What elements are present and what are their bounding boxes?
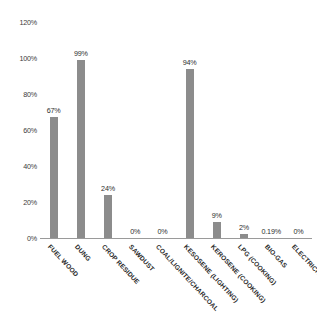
x-axis-label-slot: LPG (COOKING) bbox=[230, 240, 257, 331]
bar-value-label: 0% bbox=[130, 227, 140, 236]
bar[interactable] bbox=[104, 195, 112, 238]
bar[interactable] bbox=[77, 60, 85, 238]
bar-slot: 9% bbox=[203, 22, 230, 238]
bar-slot: 67% bbox=[40, 22, 67, 238]
x-axis-line bbox=[40, 238, 312, 239]
bar-slot: 0% bbox=[149, 22, 176, 238]
x-axis-label-slot: COAL/LIGNITE/CHARCOAL bbox=[149, 240, 176, 331]
y-axis-tick-label: 20% bbox=[23, 198, 37, 207]
x-axis-label-slot: ELECTRICITY bbox=[285, 240, 312, 331]
x-axis-label-slot: BIO-GAS bbox=[258, 240, 285, 331]
x-axis-label-slot: SAWDUST bbox=[122, 240, 149, 331]
y-axis-tick-label: 0% bbox=[27, 234, 37, 243]
x-axis-label-slot: DUNG bbox=[67, 240, 94, 331]
x-axis-label-slot: CROP RESIDUE bbox=[94, 240, 121, 331]
y-axis-tick-label: 40% bbox=[23, 162, 37, 171]
x-axis-label-slot: FUEL WOOD bbox=[40, 240, 67, 331]
bar-value-label: 0% bbox=[293, 227, 303, 236]
bar-slot: 0% bbox=[122, 22, 149, 238]
bar[interactable] bbox=[50, 117, 58, 238]
bar-slot: 24% bbox=[94, 22, 121, 238]
x-axis: FUEL WOODDUNGCROP RESIDUESAWDUSTCOAL/LIG… bbox=[40, 240, 312, 331]
bar-value-label: 67% bbox=[47, 106, 61, 115]
bar-chart: 0%20%40%60%80%100%120% 67%99%24%0%0%94%9… bbox=[0, 0, 317, 331]
bar-slot: 0% bbox=[285, 22, 312, 238]
bar-value-label: 24% bbox=[101, 184, 115, 193]
bar-value-label: 9% bbox=[212, 211, 222, 220]
bar-slot: 99% bbox=[67, 22, 94, 238]
y-axis: 0%20%40%60%80%100%120% bbox=[0, 0, 40, 331]
bar-value-label: 0% bbox=[157, 227, 167, 236]
bar-value-label: 2% bbox=[239, 223, 249, 232]
x-axis-label-slot: KEROSENE (COOKING) bbox=[203, 240, 230, 331]
plot-area: 67%99%24%0%0%94%9%2%0.19%0% bbox=[40, 22, 312, 238]
bar[interactable] bbox=[213, 222, 221, 238]
bar-value-label: 99% bbox=[74, 49, 88, 58]
x-axis-tick-label: DUNG bbox=[74, 243, 93, 262]
y-axis-tick-label: 100% bbox=[19, 54, 37, 63]
bar-slot: 94% bbox=[176, 22, 203, 238]
bar-value-label: 0.19% bbox=[261, 227, 280, 236]
y-axis-tick-label: 80% bbox=[23, 90, 37, 99]
x-axis-tick-label: ELECTRICITY bbox=[291, 243, 317, 280]
bar-value-label: 94% bbox=[183, 58, 197, 67]
x-axis-label-slot: KESOSENE (LIGHTING) bbox=[176, 240, 203, 331]
y-axis-tick-label: 60% bbox=[23, 126, 37, 135]
bar[interactable] bbox=[186, 69, 194, 238]
bar-slot: 0.19% bbox=[258, 22, 285, 238]
y-axis-tick-label: 120% bbox=[19, 18, 37, 27]
bar-slot: 2% bbox=[230, 22, 257, 238]
